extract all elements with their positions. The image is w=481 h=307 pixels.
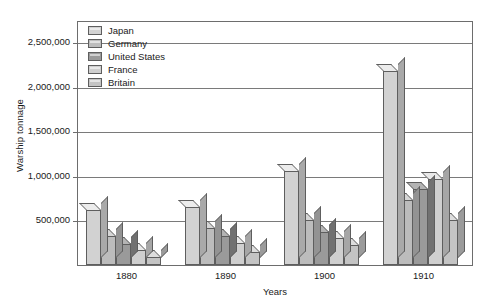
bar-side-face (260, 238, 267, 258)
x-axis-tick-label: 1910 (374, 270, 473, 281)
y-axis-tick-mark (73, 88, 78, 89)
legend-item-united-states: United States (88, 50, 165, 63)
y-axis-tick-mark (73, 177, 78, 178)
bar (86, 210, 101, 265)
bar-top-face (178, 200, 200, 207)
legend-swatch-icon (88, 26, 102, 35)
gridline (78, 177, 472, 178)
legend-swatch-icon (88, 65, 102, 74)
y-axis-tick-labels: 500,0001,000,0001,500,0002,000,0002,500,… (6, 0, 70, 307)
legend-item-britain: Britain (88, 76, 165, 89)
bar (383, 71, 398, 265)
x-axis-tick-label: 1900 (275, 270, 374, 281)
legend-swatch-icon (88, 78, 102, 87)
legend-item-label: Britain (108, 77, 135, 88)
gridline (78, 132, 472, 133)
bar-side-face (314, 206, 321, 258)
x-axis-tick-label: 1880 (77, 270, 176, 281)
bar (284, 171, 299, 265)
legend-item-label: France (108, 64, 138, 75)
bar-side-face (101, 196, 108, 258)
bar-front-face (86, 210, 101, 265)
bar-side-face (299, 157, 306, 258)
bar-top-face (376, 64, 398, 71)
y-axis-tick-label: 2,500,000 (6, 37, 70, 47)
y-axis-tick-label: 1,000,000 (6, 171, 70, 181)
warship-tonnage-bar-chart: Warship tonnage 500,0001,000,0001,500,00… (0, 0, 481, 307)
legend-item-japan: Japan (88, 24, 165, 37)
bar-side-face (413, 186, 420, 258)
y-axis-tick-label: 500,000 (6, 215, 70, 225)
bar (146, 257, 161, 265)
bar-top-face (79, 203, 101, 210)
legend-item-france: France (88, 63, 165, 76)
bar-side-face (443, 165, 450, 258)
bar-front-face (284, 171, 299, 265)
legend-item-label: Germany (108, 38, 147, 49)
bar-side-face (458, 206, 465, 258)
bar-side-face (329, 218, 336, 258)
bar-side-face (428, 175, 435, 258)
y-axis-tick-mark (73, 43, 78, 44)
bar-side-face (161, 243, 168, 258)
bar-side-face (359, 231, 366, 258)
y-axis-tick-mark (73, 221, 78, 222)
bar-side-face (200, 193, 207, 258)
y-axis-tick-label: 2,000,000 (6, 82, 70, 92)
bar (185, 207, 200, 265)
bar-side-face (398, 57, 405, 258)
legend-item-label: United States (108, 51, 165, 62)
x-axis-title: Years (77, 286, 473, 297)
bar-front-face (146, 257, 161, 265)
y-axis-tick-mark (73, 132, 78, 133)
bar-top-face (277, 164, 299, 171)
bar-front-face (383, 71, 398, 265)
legend-swatch-icon (88, 52, 102, 61)
chart-legend: JapanGermanyUnited StatesFranceBritain (88, 24, 165, 89)
bar-side-face (215, 214, 222, 258)
y-axis-tick-label: 1,500,000 (6, 126, 70, 136)
x-axis-tick-label: 1890 (176, 270, 275, 281)
bar-front-face (185, 207, 200, 265)
legend-item-label: Japan (108, 25, 134, 36)
legend-swatch-icon (88, 39, 102, 48)
page-caption-stub (0, 299, 481, 307)
legend-item-germany: Germany (88, 37, 165, 50)
